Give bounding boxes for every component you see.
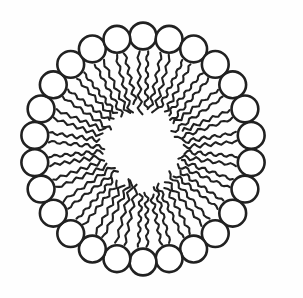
lipid-head bbox=[156, 245, 183, 272]
lipid-head bbox=[180, 236, 207, 263]
lipid-head bbox=[21, 149, 48, 176]
lipid-head bbox=[219, 71, 246, 98]
lipid-head bbox=[238, 122, 265, 149]
lipid-head bbox=[238, 149, 265, 176]
lipid-heads-layer bbox=[21, 23, 264, 276]
lipid-tail bbox=[184, 141, 237, 149]
lipid-tail bbox=[138, 51, 143, 114]
lipid-tail bbox=[145, 51, 149, 107]
lipid-tail bbox=[184, 150, 237, 157]
lipid-head bbox=[79, 36, 106, 63]
lipid-head bbox=[156, 26, 183, 53]
lipid-head bbox=[104, 26, 131, 53]
lipid-tail bbox=[50, 132, 99, 142]
lipid-head bbox=[28, 176, 55, 203]
lipid-tail bbox=[144, 193, 148, 247]
lipid-head bbox=[21, 122, 48, 149]
lipid-head bbox=[40, 200, 67, 227]
lipid-head bbox=[130, 23, 157, 50]
lipid-head bbox=[232, 176, 259, 203]
micelle-diagram bbox=[0, 0, 303, 298]
lipid-head bbox=[104, 245, 131, 272]
micelle-svg bbox=[0, 0, 303, 298]
lipid-tail bbox=[83, 181, 117, 225]
lipid-tails-layer bbox=[49, 51, 237, 246]
lipid-head bbox=[130, 249, 157, 276]
lipid-tail bbox=[138, 194, 143, 247]
lipid-head bbox=[28, 96, 55, 123]
lipid-head bbox=[232, 96, 259, 123]
